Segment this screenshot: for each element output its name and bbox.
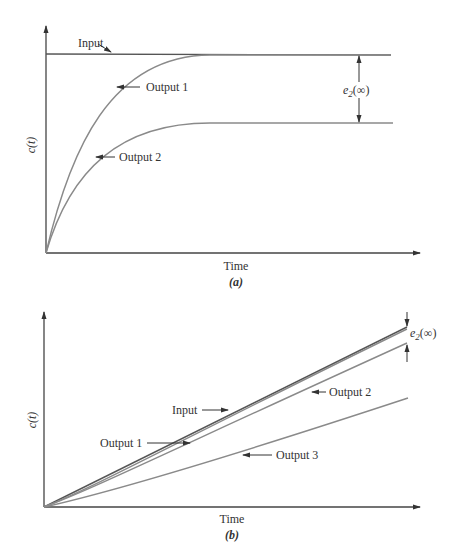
output2-label: Output 2	[329, 385, 371, 399]
y-axis-label: c(t)	[24, 137, 38, 154]
panel-b-caption: (b)	[225, 528, 239, 542]
panel-a-caption: (a)	[229, 275, 243, 289]
input-label: Input	[78, 36, 104, 50]
panel-a: Input Output 1 Output 2 e2(∞) c(t) Time …	[24, 26, 420, 289]
input-label: Input	[172, 403, 198, 417]
output1-curve	[46, 55, 391, 253]
figure: Input Output 1 Output 2 e2(∞) c(t) Time …	[0, 0, 462, 560]
error-label: e2(∞)	[343, 83, 369, 99]
output3-label: Output 3	[276, 448, 318, 462]
output1-label: Output 1	[100, 436, 142, 450]
x-axis-label: Time	[220, 512, 245, 526]
y-axis-label: c(t)	[25, 412, 39, 429]
output2-curve	[46, 123, 393, 253]
output1-label: Output 1	[146, 80, 188, 94]
panel-b: Input Output 1 Output 2 Output 3 e2(∞) c…	[25, 312, 436, 542]
error-label: e2(∞)	[410, 326, 436, 342]
x-axis-label: Time	[224, 259, 249, 273]
output2-label: Output 2	[119, 150, 161, 164]
input-line	[44, 327, 407, 507]
output3-curve	[44, 398, 408, 507]
